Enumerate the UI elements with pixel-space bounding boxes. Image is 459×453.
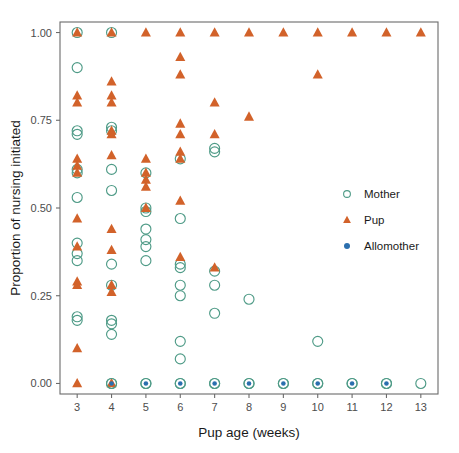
x-tick-label: 11 <box>346 401 357 413</box>
y-axis-ticks: 0.000.250.500.751.00 <box>31 27 60 390</box>
legend-label: Allomother <box>364 240 419 252</box>
y-tick-label: 0.75 <box>31 114 52 126</box>
y-axis-title: Proportion of nursing initiated <box>8 120 23 296</box>
point-allomother <box>350 381 355 386</box>
point-allomother <box>315 381 320 386</box>
x-tick-label: 9 <box>280 401 286 413</box>
x-tick-label: 3 <box>74 401 80 413</box>
y-tick-label: 1.00 <box>31 27 52 39</box>
y-tick-label: 0.00 <box>31 377 52 389</box>
scatter-plot: 0.000.250.500.751.00 345678910111213 Mot… <box>0 0 459 453</box>
x-tick-label: 10 <box>312 401 324 413</box>
point-allomother <box>384 381 389 386</box>
point-allomother <box>109 381 114 386</box>
x-tick-label: 8 <box>246 401 252 413</box>
x-tick-label: 4 <box>108 401 114 413</box>
y-tick-label: 0.50 <box>31 202 52 214</box>
x-tick-label: 6 <box>177 401 183 413</box>
legend-label: Mother <box>364 188 400 200</box>
plot-panel <box>60 22 438 394</box>
x-tick-label: 13 <box>415 401 427 413</box>
x-tick-label: 5 <box>143 401 149 413</box>
point-allomother <box>178 381 183 386</box>
x-axis-title: Pup age (weeks) <box>198 425 299 440</box>
x-tick-label: 7 <box>212 401 218 413</box>
y-tick-label: 0.25 <box>31 290 52 302</box>
chart-figure: 0.000.250.500.751.00 345678910111213 Mot… <box>0 0 459 453</box>
point-allomother <box>144 381 149 386</box>
x-axis-ticks: 345678910111213 <box>74 394 427 413</box>
point-allomother <box>212 381 217 386</box>
point-allomother <box>281 381 286 386</box>
x-tick-label: 12 <box>380 401 392 413</box>
point-allomother <box>247 381 252 386</box>
legend-key-filled-circle-icon <box>344 243 350 249</box>
legend-label: Pup <box>364 214 384 226</box>
